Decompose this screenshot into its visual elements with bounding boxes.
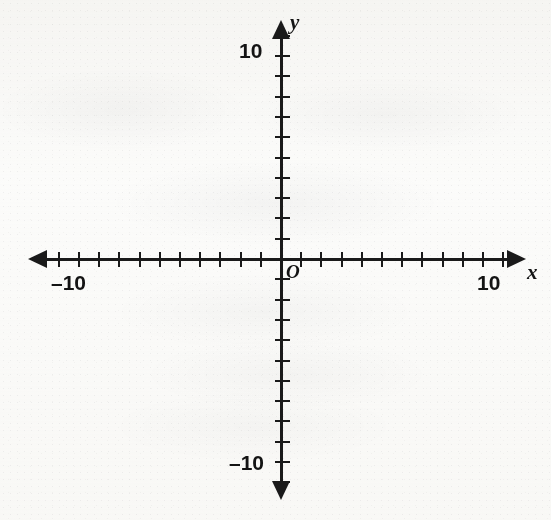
x-axis-tick xyxy=(462,252,464,267)
x-axis-tick xyxy=(199,252,201,267)
y-axis-tick xyxy=(275,75,290,77)
x-axis-tick xyxy=(260,252,262,267)
x-axis-tick xyxy=(482,252,484,267)
x-axis-tick xyxy=(159,252,161,267)
y-axis-tick xyxy=(275,319,290,321)
ghost-text-line-1 xyxy=(60,96,65,116)
x-axis-tick xyxy=(58,252,60,267)
x-axis-tick xyxy=(78,252,80,267)
y-axis-tick xyxy=(275,197,290,199)
x-axis-tick xyxy=(320,252,322,267)
y-axis-tick xyxy=(275,420,290,422)
x-axis-tick xyxy=(502,252,504,267)
ghost-text-line-5 xyxy=(120,410,126,436)
ghost-text-line-2 xyxy=(135,190,142,221)
x-axis-tick xyxy=(401,252,403,267)
x-axis-tick xyxy=(421,252,423,267)
y-axis-tick xyxy=(275,217,290,219)
y-axis-tick xyxy=(275,116,290,118)
y-axis-tick xyxy=(275,177,290,179)
y-axis-tick xyxy=(275,35,290,37)
ghost-text-line-4 xyxy=(60,330,65,350)
y-axis-label: y xyxy=(290,12,299,33)
y-axis-tick xyxy=(275,400,290,402)
x-axis-tick xyxy=(118,252,120,267)
y-axis-tick xyxy=(275,238,290,240)
y-axis-down-arrow-icon xyxy=(272,481,290,500)
y-axis-line xyxy=(280,36,283,484)
x-axis-tick xyxy=(341,252,343,267)
x-axis-tick xyxy=(361,252,363,267)
x-axis-tick xyxy=(240,252,242,267)
y-axis-tick xyxy=(275,157,290,159)
y-axis-tick xyxy=(275,55,290,57)
y-axis-tick xyxy=(275,481,290,483)
x-tick-label-negative-10: –10 xyxy=(51,272,86,293)
x-axis-left-arrow-icon xyxy=(28,250,47,268)
y-axis-tick xyxy=(275,136,290,138)
y-axis-tick xyxy=(275,380,290,382)
y-axis-tick xyxy=(275,461,290,463)
x-axis-tick xyxy=(139,252,141,267)
x-axis-tick xyxy=(442,252,444,267)
coordinate-plane-figure: x y O –10 10 10 –10 xyxy=(0,0,551,520)
x-axis-right-arrow-icon xyxy=(507,250,526,268)
origin-label: O xyxy=(286,262,300,281)
x-axis-tick xyxy=(179,252,181,267)
y-tick-label-negative-10: –10 xyxy=(229,452,264,473)
ghost-text-line-3 xyxy=(90,295,95,315)
x-tick-label-positive-10: 10 xyxy=(477,272,500,293)
y-tick-label-positive-10: 10 xyxy=(239,40,262,61)
x-axis-tick xyxy=(300,252,302,267)
x-axis-tick xyxy=(219,252,221,267)
y-axis-tick xyxy=(275,96,290,98)
x-axis-tick xyxy=(381,252,383,267)
x-axis-label: x xyxy=(527,262,538,283)
y-axis-tick xyxy=(275,441,290,443)
y-axis-tick xyxy=(275,299,290,301)
y-axis-tick xyxy=(275,339,290,341)
x-axis-tick xyxy=(98,252,100,267)
y-axis-tick xyxy=(275,360,290,362)
